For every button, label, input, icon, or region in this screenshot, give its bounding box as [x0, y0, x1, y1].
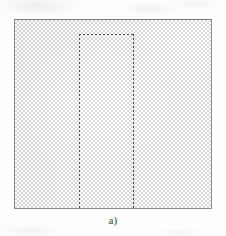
dashed-edge-top — [79, 34, 134, 35]
dashed-edge-bottom — [79, 208, 134, 209]
dashed-edge-right — [133, 34, 134, 209]
dashed-edge-left — [79, 34, 80, 209]
hatched-square-region — [14, 19, 212, 209]
figure-caption: a) — [0, 214, 226, 226]
figure-panel: a) — [0, 0, 226, 236]
dashed-inner-region — [79, 34, 134, 209]
scan-shading-overlay — [15, 20, 211, 208]
